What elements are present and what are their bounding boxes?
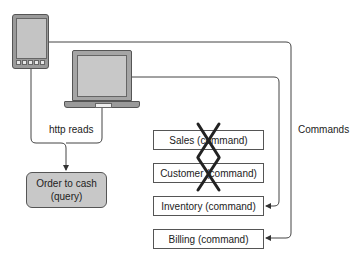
cross-marks (0, 0, 356, 263)
customer-cross-icon (198, 158, 219, 190)
sales-cross-icon (198, 124, 219, 157)
